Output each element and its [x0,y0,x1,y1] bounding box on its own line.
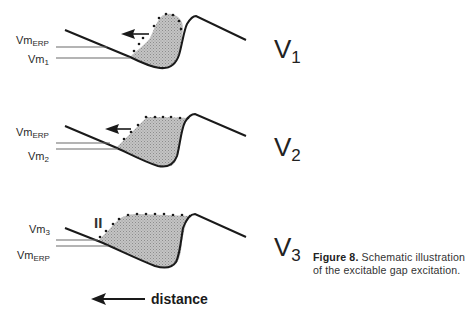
vm-erp-label: VmERP [16,34,49,48]
caption-title: Figure 8. [313,251,359,263]
vm-erp-label: VmERP [16,126,49,140]
panel-label-v3: V3 [274,232,301,265]
panel-label-v1: V1 [274,34,301,67]
panel-v2: VmERP Vm2 V2 [16,114,301,167]
distance-label: distance [151,291,208,307]
conduction-block-marker: II [94,214,102,231]
excitable-gap-shade [117,117,188,167]
vm1-label: Vm1 [28,53,50,67]
vm2-label: Vm2 [28,150,50,164]
panel-label-v2: V2 [274,132,301,165]
figure-caption: Figure 8. Schematic illustration of the … [313,251,465,277]
panel-v3: II Vm3 VmERP V3 [17,213,301,268]
vm3-label: Vm3 [29,223,51,237]
left-arrow-icon [121,29,149,39]
left-arrow-icon [105,124,131,134]
panel-v1: VmERP Vm1 V1 [16,13,301,69]
distance-axis: distance [91,291,208,307]
vm-erp-label: VmERP [17,249,50,263]
left-arrow-icon [91,293,145,305]
